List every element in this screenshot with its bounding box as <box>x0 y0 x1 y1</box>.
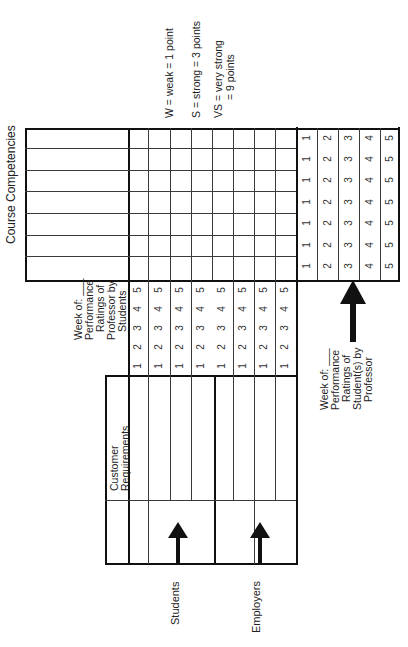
rating-1[interactable]: 1 <box>302 218 312 228</box>
rating-2[interactable]: 2 <box>323 218 333 228</box>
rating-4[interactable]: 4 <box>154 304 164 314</box>
rating-5[interactable]: 5 <box>385 154 395 164</box>
rating-4[interactable]: 4 <box>365 261 375 271</box>
arrow-up-icon <box>250 522 270 564</box>
rating-1[interactable]: 1 <box>302 261 312 271</box>
arrow-up-icon <box>340 280 366 342</box>
rating-1[interactable]: 1 <box>302 133 312 143</box>
rating-4[interactable]: 4 <box>365 175 375 185</box>
rating-1[interactable]: 1 <box>302 154 312 164</box>
rating-3[interactable]: 3 <box>175 323 185 333</box>
rating-4[interactable]: 4 <box>365 133 375 143</box>
rating-2[interactable]: 2 <box>133 342 143 352</box>
rating-3[interactable]: 3 <box>259 323 269 333</box>
rating-1[interactable]: 1 <box>259 361 269 371</box>
rating-5[interactable]: 5 <box>217 285 227 295</box>
rating-1[interactable]: 1 <box>154 361 164 371</box>
rating-5[interactable]: 5 <box>154 285 164 295</box>
rating-1[interactable]: 1 <box>175 361 185 371</box>
rating-3[interactable]: 3 <box>196 323 206 333</box>
legend-very-strong: VS = very strong <box>212 40 224 118</box>
rating-3[interactable]: 3 <box>238 323 248 333</box>
rating-4[interactable]: 4 <box>133 304 143 314</box>
rating-3[interactable]: 3 <box>344 197 354 207</box>
rating-2[interactable]: 2 <box>196 342 206 352</box>
rating-1[interactable]: 1 <box>302 240 312 250</box>
legend-strong: S = strong = 3 points <box>190 21 202 118</box>
rating-5[interactable]: 5 <box>259 285 269 295</box>
rating-2[interactable]: 2 <box>323 154 333 164</box>
rating-3[interactable]: 3 <box>344 218 354 228</box>
rating-3[interactable]: 3 <box>344 154 354 164</box>
rating-2[interactable]: 2 <box>323 197 333 207</box>
rating-5[interactable]: 5 <box>385 133 395 143</box>
rating-5[interactable]: 5 <box>133 285 143 295</box>
rating-1[interactable]: 1 <box>302 197 312 207</box>
rating-4[interactable]: 4 <box>280 304 290 314</box>
rating-4[interactable]: 4 <box>365 154 375 164</box>
rating-5[interactable]: 5 <box>238 285 248 295</box>
rating-2[interactable]: 2 <box>280 342 290 352</box>
title-course-competencies: Course Competencies <box>4 125 18 244</box>
rating-3[interactable]: 3 <box>280 323 290 333</box>
rating-5[interactable]: 5 <box>385 175 395 185</box>
legend-very-strong-points: = 9 points <box>224 54 236 100</box>
customer-students: Students <box>169 582 181 625</box>
rating-4[interactable]: 4 <box>365 197 375 207</box>
rating-5[interactable]: 5 <box>385 218 395 228</box>
rating-2[interactable]: 2 <box>323 261 333 271</box>
rating-3[interactable]: 3 <box>344 133 354 143</box>
rating-4[interactable]: 4 <box>175 304 185 314</box>
rating-3[interactable]: 3 <box>217 323 227 333</box>
rating-1[interactable]: 1 <box>302 175 312 185</box>
rating-4[interactable]: 4 <box>217 304 227 314</box>
rating-5[interactable]: 5 <box>385 240 395 250</box>
rating-4[interactable]: 4 <box>259 304 269 314</box>
rating-4[interactable]: 4 <box>238 304 248 314</box>
arrow-up-icon <box>168 522 188 564</box>
rating-2[interactable]: 2 <box>154 342 164 352</box>
rating-1[interactable]: 1 <box>217 361 227 371</box>
rating-1[interactable]: 1 <box>133 361 143 371</box>
rating-4[interactable]: 4 <box>365 218 375 228</box>
legend-weak: W = weak = 1 point <box>163 28 175 118</box>
rating-5[interactable]: 5 <box>385 197 395 207</box>
rating-5[interactable]: 5 <box>385 261 395 271</box>
rating-4[interactable]: 4 <box>196 304 206 314</box>
rating-3[interactable]: 3 <box>344 240 354 250</box>
rating-2[interactable]: 2 <box>323 240 333 250</box>
rating-1[interactable]: 1 <box>196 361 206 371</box>
rating-2[interactable]: 2 <box>217 342 227 352</box>
rating-1[interactable]: 1 <box>280 361 290 371</box>
rating-2[interactable]: 2 <box>323 175 333 185</box>
rating-3[interactable]: 3 <box>344 175 354 185</box>
rating-1[interactable]: 1 <box>238 361 248 371</box>
rating-3[interactable]: 3 <box>133 323 143 333</box>
rating-2[interactable]: 2 <box>175 342 185 352</box>
rating-5[interactable]: 5 <box>280 285 290 295</box>
rating-4[interactable]: 4 <box>365 240 375 250</box>
rating-3[interactable]: 3 <box>154 323 164 333</box>
rating-5[interactable]: 5 <box>196 285 206 295</box>
rating-2[interactable]: 2 <box>259 342 269 352</box>
rating-2[interactable]: 2 <box>238 342 248 352</box>
customer-employers: Employers <box>250 581 262 633</box>
rating-5[interactable]: 5 <box>175 285 185 295</box>
rating-3[interactable]: 3 <box>344 261 354 271</box>
rating-2[interactable]: 2 <box>323 133 333 143</box>
